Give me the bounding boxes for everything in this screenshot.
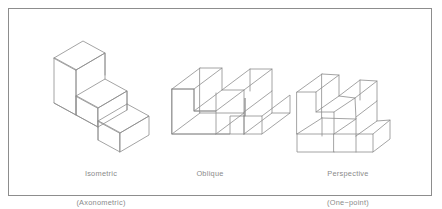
caption-perspective-line1: Perspective bbox=[278, 169, 418, 179]
figure-root: Isometric (Axonometric) Oblique Perspect… bbox=[0, 0, 442, 209]
caption-oblique-line1: Oblique bbox=[150, 169, 270, 179]
caption-perspective-line2: (One−point) bbox=[278, 198, 418, 208]
caption-isometric-line2: (Axonometric) bbox=[36, 198, 166, 208]
caption-perspective: Perspective (One−point) bbox=[278, 150, 418, 209]
oblique-figure bbox=[172, 68, 290, 134]
isometric-figure bbox=[54, 41, 149, 152]
perspective-figure bbox=[297, 74, 390, 152]
caption-oblique: Oblique bbox=[150, 150, 270, 198]
caption-isometric-line1: Isometric bbox=[36, 169, 166, 179]
caption-isometric: Isometric (Axonometric) bbox=[36, 150, 166, 209]
